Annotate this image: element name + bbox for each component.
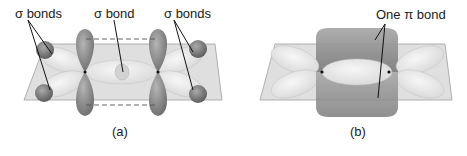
sigma-bonds-left-label: σ bonds bbox=[15, 6, 62, 21]
panel-a-caption: (a) bbox=[112, 124, 128, 139]
carbon-nucleus bbox=[320, 70, 323, 73]
carbon-nucleus bbox=[387, 70, 390, 73]
panel-b-diagram bbox=[260, 24, 452, 117]
hydrogen-atom bbox=[35, 84, 53, 102]
panel-a-diagram bbox=[24, 20, 222, 116]
hydrogen-atom bbox=[189, 85, 207, 103]
carbon-nucleus bbox=[83, 70, 86, 73]
sigma-bonds-right-label: σ bonds bbox=[164, 6, 211, 21]
bonding-diagram bbox=[0, 0, 467, 156]
sigma-bond-center-label: σ bond bbox=[94, 6, 135, 21]
carbon-nucleus bbox=[156, 70, 159, 73]
pi-bond-label: One π bond bbox=[376, 7, 446, 22]
panel-b-caption: (b) bbox=[350, 124, 366, 139]
